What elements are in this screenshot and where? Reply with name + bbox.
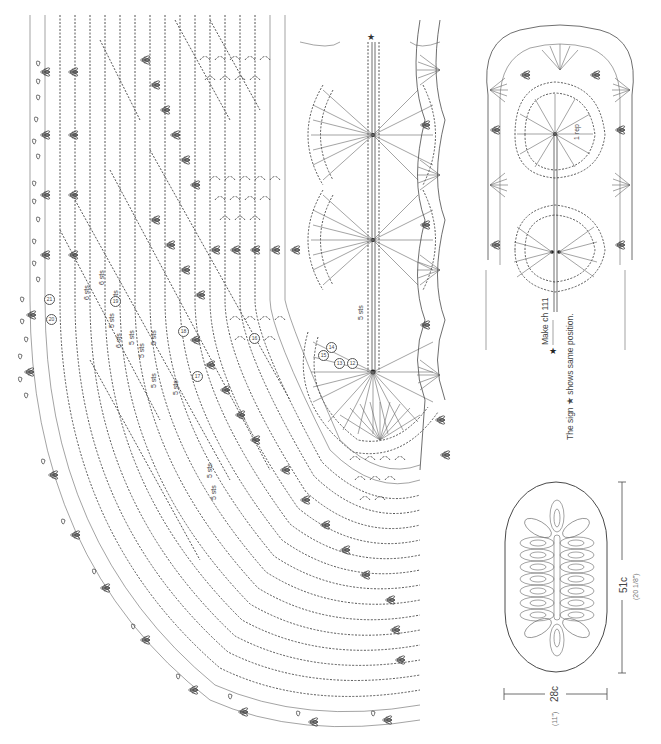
width-dimension-cm: 28c [549,686,560,702]
crochet-diagram-page: ★ 6 sts 6 sts 6 sts 5 sts 6 sts 5 sts 5 … [0,0,661,744]
width-dimension-in: (11") [551,712,558,726]
length-dimension-cm: 51c [618,577,629,593]
leaf-motifs [520,500,594,656]
length-dimension-in: (20 1/8") [632,573,639,600]
doily-schematic [0,0,661,744]
